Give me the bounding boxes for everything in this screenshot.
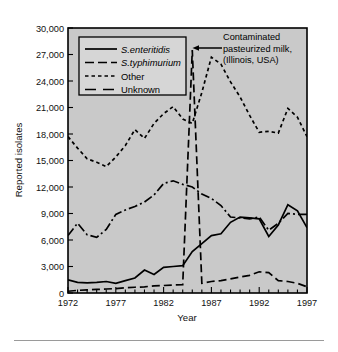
y-tick-label: 18,000 <box>36 130 64 140</box>
y-tick-label: 12,000 <box>36 183 64 193</box>
y-tick-label: 24,000 <box>36 77 64 87</box>
y-tick-label: 21,000 <box>36 103 64 113</box>
y-axis-title: Reported isolates <box>13 122 24 197</box>
x-axis-title: Year <box>177 312 197 323</box>
annotation-line-1: Contaminated <box>223 32 280 42</box>
salmonella-isolates-line-chart: 30,000 27,000 24,000 21,000 18,000 15,00… <box>0 0 338 352</box>
y-tick-label: 30,000 <box>36 24 64 34</box>
x-tick-label: 1972 <box>58 298 78 308</box>
x-tick-label: 1992 <box>249 298 269 308</box>
x-tick-label: 1997 <box>297 298 317 308</box>
y-tick-label: 27,000 <box>36 50 64 60</box>
y-tick-label: 15,000 <box>36 156 64 166</box>
annotation-line-2: pasteurized milk, <box>223 44 292 54</box>
figure-container: 30,000 27,000 24,000 21,000 18,000 15,00… <box>0 0 338 352</box>
legend-label-s-typhimurium: S.typhimurium <box>121 57 181 68</box>
y-tick-label: 9,000 <box>41 209 64 219</box>
y-tick-label: 0 <box>59 289 64 299</box>
y-tick-label: 6,000 <box>41 236 64 246</box>
x-tick-label: 1987 <box>201 298 221 308</box>
legend-label-unknown: Unknown <box>121 84 160 95</box>
legend-label-s-enteritidis: S.enteritidis <box>121 44 170 55</box>
annotation-line-3: (Illinois, USA) <box>223 55 279 65</box>
chart-legend: S.enteritidis S.typhimurium Other Unknow… <box>79 37 186 95</box>
x-tick-label: 1977 <box>106 298 126 308</box>
legend-label-other: Other <box>121 71 144 82</box>
y-tick-label: 3,000 <box>41 262 64 272</box>
figure-footer-rule <box>14 340 324 341</box>
x-tick-label: 1982 <box>153 298 173 308</box>
